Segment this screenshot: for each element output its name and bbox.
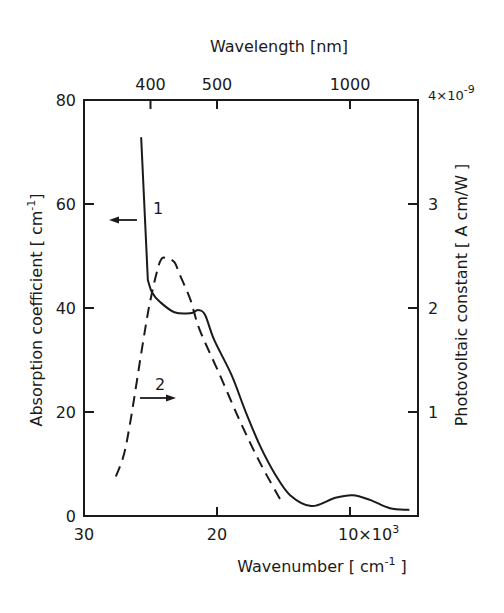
y-right-tick-label: 3 [428,195,438,214]
x-tick-label: 30 [74,525,94,544]
x-top-tick-label: 400 [135,75,166,94]
axis-ticks [84,100,418,516]
axis-tick-labels: 302010×10340050010000204060801234×10-9 [56,75,475,544]
x-top-tick-label: 1000 [330,75,371,94]
x-tick-label: 20 [207,525,227,544]
series-2-label: 2 [155,375,165,394]
y-left-axis-title: Absorption coefficient [ cm-1] [25,193,46,426]
arrow-right-icon [140,395,176,402]
plot-frame [84,100,418,516]
y-left-tick-label: 0 [66,507,76,526]
y-right-tick-label: 2 [428,299,438,318]
y-left-tick-label: 40 [56,299,76,318]
chart: 302010×10340050010000204060801234×10-9 W… [0,0,504,613]
arrow-left-icon [109,217,137,224]
y-left-tick-label: 60 [56,195,76,214]
series-1-label: 1 [153,199,163,218]
y-left-tick-label: 80 [56,91,76,110]
x-tick-label: 10×103 [338,523,399,544]
x-top-tick-label: 500 [202,75,233,94]
top-axis-title: Wavelength [nm] [210,37,348,56]
y-right-axis-title: Photovoltaic constant [ A cm/W ] [452,164,471,427]
y-left-tick-label: 20 [56,403,76,422]
x-axis-title: Wavenumber [ cm-1 ] [237,555,406,576]
series-1-solid-line [141,138,408,510]
series-2-dashed-line [116,258,281,501]
y-right-tick-label: 4×10-9 [428,83,475,103]
y-right-tick-label: 1 [428,403,438,422]
